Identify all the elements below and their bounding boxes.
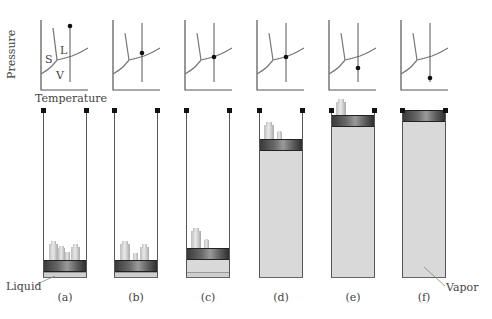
callout-vapor: Vapor — [446, 281, 478, 294]
callout-leader-lines — [0, 0, 492, 319]
callout-liquid: Liquid — [6, 280, 42, 293]
